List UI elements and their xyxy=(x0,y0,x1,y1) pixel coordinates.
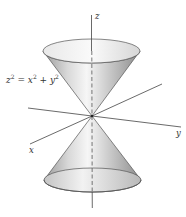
eq-sign: = xyxy=(15,75,28,85)
eq-plus: + xyxy=(37,75,50,85)
y-axis-back xyxy=(28,108,92,116)
y-axis-label: y xyxy=(176,129,181,138)
lower-nappe xyxy=(44,116,141,192)
y-axis-front xyxy=(92,116,181,127)
double-cone-diagram xyxy=(0,0,186,217)
x-axis-label: x xyxy=(29,146,34,155)
z-axis-label: z xyxy=(95,12,99,21)
eq-y-exp: 2 xyxy=(55,73,59,80)
cone-equation: z2 = x2 + y2 xyxy=(6,74,59,85)
apex-origin xyxy=(91,115,94,118)
